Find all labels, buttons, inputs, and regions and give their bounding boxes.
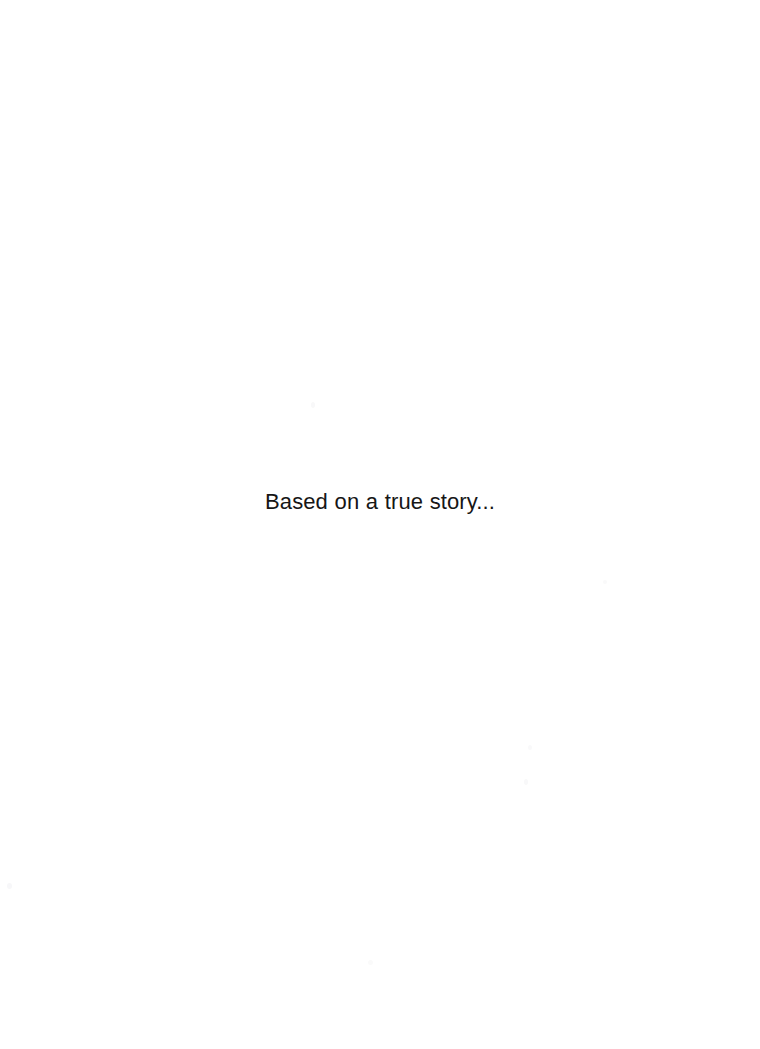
epigraph-text: Based on a true story... bbox=[265, 491, 495, 513]
scan-speck bbox=[368, 960, 373, 965]
epigraph: Based on a true story... bbox=[0, 491, 760, 513]
scan-speck bbox=[524, 779, 528, 785]
scan-speck bbox=[528, 745, 532, 750]
scan-speck bbox=[603, 580, 607, 584]
scan-speck bbox=[311, 402, 315, 408]
scan-speck bbox=[7, 883, 12, 889]
book-page: Based on a true story... bbox=[0, 0, 760, 1049]
